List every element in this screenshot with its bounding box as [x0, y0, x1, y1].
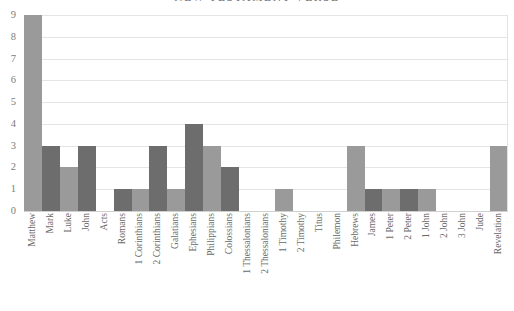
bar-slot[interactable] — [24, 15, 42, 211]
bar[interactable] — [203, 146, 221, 211]
y-axis-tick-label: 1 — [11, 184, 16, 195]
x-axis-label-slot: Titus — [311, 213, 329, 309]
bar-slot[interactable] — [347, 15, 365, 211]
x-axis-tick-label: John — [82, 213, 92, 231]
x-axis-label-slot: Hebrews — [347, 213, 365, 309]
x-axis-tick-label: 2 Corinthians — [154, 213, 164, 264]
bar-slot[interactable] — [329, 15, 347, 211]
x-axis-label-slot: John — [78, 213, 96, 309]
bar[interactable] — [400, 189, 418, 211]
bar-slot[interactable] — [490, 15, 508, 211]
bar[interactable] — [149, 146, 167, 211]
bar[interactable] — [275, 189, 293, 211]
x-axis-tick-label: 1 Thessalonians — [243, 213, 253, 274]
x-axis-label-slot: 1 Timothy — [275, 213, 293, 309]
x-axis-tick-label: Jude — [476, 213, 486, 230]
x-axis-label-slot: Luke — [60, 213, 78, 309]
x-axis-tick-label: Hebrews — [351, 213, 361, 247]
bar-slot[interactable] — [400, 15, 418, 211]
y-axis-tick-label: 9 — [11, 10, 16, 21]
bar[interactable] — [365, 189, 383, 211]
x-axis-tick-label: Matthew — [28, 213, 38, 247]
x-axis-label-slot: Ephesians — [185, 213, 203, 309]
x-axis-label-slot: 3 John — [454, 213, 472, 309]
bar[interactable] — [347, 146, 365, 211]
x-axis-tick-label: 2 John — [440, 213, 450, 238]
bar-slot[interactable] — [418, 15, 436, 211]
bar-slot[interactable] — [132, 15, 150, 211]
y-axis-tick-label: 6 — [11, 75, 16, 86]
bar-slot[interactable] — [185, 15, 203, 211]
x-axis-label-slot: 1 Thessalonians — [239, 213, 257, 309]
bar[interactable] — [167, 189, 185, 211]
x-axis-tick-label: Romans — [118, 213, 128, 244]
x-axis-label-slot: Matthew — [24, 213, 42, 309]
x-axis-tick-label: Galatians — [172, 213, 182, 249]
bar-slot[interactable] — [203, 15, 221, 211]
bar-slot[interactable] — [472, 15, 490, 211]
x-axis-label-slot: Philippians — [203, 213, 221, 309]
y-axis-tick-label: 5 — [11, 97, 16, 108]
bar[interactable] — [418, 189, 436, 211]
x-axis-label-slot: Mark — [42, 213, 60, 309]
bar[interactable] — [382, 189, 400, 211]
y-axis-tick-label: 7 — [11, 53, 16, 64]
x-axis-tick-label: 2 Peter — [405, 213, 415, 240]
bar-slot[interactable] — [149, 15, 167, 211]
bar-slot[interactable] — [365, 15, 383, 211]
bar-slot[interactable] — [167, 15, 185, 211]
x-axis-tick-label: Philemon — [333, 213, 343, 249]
bar-slot[interactable] — [221, 15, 239, 211]
x-axis-tick-label: James — [369, 213, 379, 236]
y-axis-tick-label: 8 — [11, 32, 16, 43]
y-axis-tick-label: 3 — [11, 140, 16, 151]
bar-slot[interactable] — [114, 15, 132, 211]
bar[interactable] — [42, 146, 60, 211]
x-axis-tick-label: 1 John — [422, 213, 432, 238]
x-axis-tick-label: 2 Thessalonians — [261, 213, 271, 274]
bar[interactable] — [78, 146, 96, 211]
x-axis-tick-label: 1 Peter — [387, 213, 397, 240]
bar-slot[interactable] — [275, 15, 293, 211]
x-axis-label-slot: 2 Thessalonians — [257, 213, 275, 309]
plot-right-border — [507, 15, 508, 211]
x-axis-tick-label: Philippians — [207, 213, 217, 256]
x-axis-tick-label: 2 Timothy — [297, 213, 307, 252]
bar-slot[interactable] — [382, 15, 400, 211]
x-axis-label-slot: 2 John — [436, 213, 454, 309]
x-axis-tick-label: Colossians — [225, 213, 235, 254]
bar-slot[interactable] — [78, 15, 96, 211]
x-axis-label-slot: James — [365, 213, 383, 309]
bar-slot[interactable] — [42, 15, 60, 211]
bar-slot[interactable] — [311, 15, 329, 211]
x-axis-label-slot: 1 Peter — [382, 213, 400, 309]
y-axis-tick-labels: 0123456789 — [0, 15, 20, 211]
x-axis-label-slot: Jude — [472, 213, 490, 309]
y-axis-tick-label: 4 — [11, 119, 16, 130]
bar[interactable] — [185, 124, 203, 211]
bar-slot[interactable] — [293, 15, 311, 211]
bar[interactable] — [24, 15, 42, 211]
bar[interactable] — [132, 189, 150, 211]
bar[interactable] — [60, 167, 78, 211]
bar-slot[interactable] — [60, 15, 78, 211]
x-axis-label-slot: Acts — [96, 213, 114, 309]
bar-slot[interactable] — [436, 15, 454, 211]
x-axis-tick-label: Acts — [100, 213, 110, 230]
bar-slot[interactable] — [239, 15, 257, 211]
bar[interactable] — [114, 189, 132, 211]
x-axis-label-slot: Colossians — [221, 213, 239, 309]
y-axis-tick-label: 0 — [11, 206, 16, 217]
bar[interactable] — [490, 146, 508, 211]
x-axis-label-slot: Galatians — [167, 213, 185, 309]
x-axis-label-slot: 1 Corinthians — [132, 213, 150, 309]
bar-slot[interactable] — [257, 15, 275, 211]
chart-title: NEW TESTAMENT VERSE — [0, 0, 514, 5]
bar[interactable] — [221, 167, 239, 211]
bar-series — [24, 15, 508, 211]
x-axis-tick-label: 1 Timothy — [279, 213, 289, 252]
bar-slot[interactable] — [454, 15, 472, 211]
bar-slot[interactable] — [96, 15, 114, 211]
x-axis-label-slot: 1 John — [418, 213, 436, 309]
x-axis-tick-label: Luke — [64, 213, 74, 233]
